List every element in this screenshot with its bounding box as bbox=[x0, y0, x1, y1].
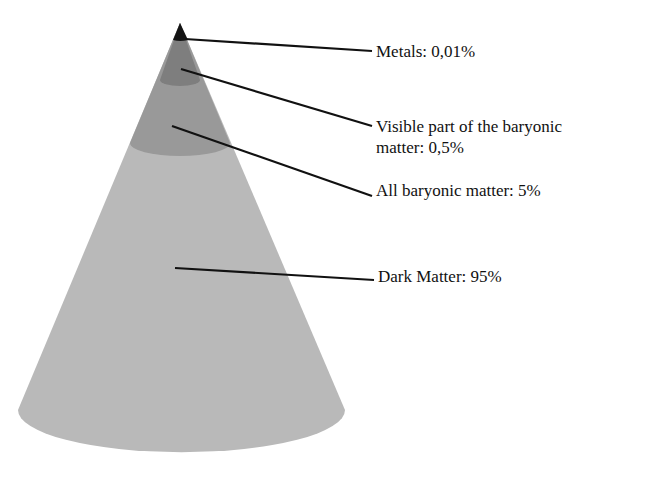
dark-matter-label: Dark Matter: 95% bbox=[378, 267, 502, 287]
baryonic-label: All baryonic matter: 5% bbox=[376, 181, 541, 201]
cone-diagram bbox=[0, 0, 647, 492]
visible-baryonic-label-line1: Visible part of the baryonic bbox=[376, 117, 562, 137]
metals-label: Metals: 0,01% bbox=[376, 42, 475, 62]
metals-leader-line bbox=[185, 39, 372, 51]
visible-baryonic-label-line2: matter: 0,5% bbox=[376, 138, 464, 158]
